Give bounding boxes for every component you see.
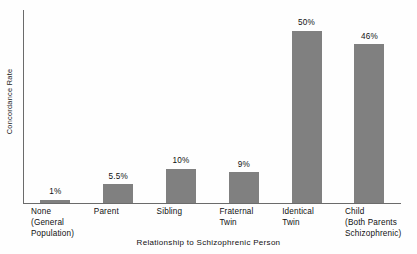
bar-value-label-2: 10% bbox=[172, 157, 189, 165]
bar-5 bbox=[354, 44, 384, 203]
category-label-4: IdenticalTwin bbox=[282, 206, 352, 228]
category-label-0: None(GeneralPopulation) bbox=[31, 206, 101, 239]
bar-group-5: 46% bbox=[338, 10, 401, 203]
bar-group-3: 9% bbox=[212, 10, 275, 203]
x-axis-line bbox=[23, 203, 401, 204]
bar-group-0: 1% bbox=[24, 10, 87, 203]
bar-3 bbox=[229, 172, 259, 203]
category-label-1: Parent bbox=[94, 206, 164, 217]
category-label-5: Child(Both ParentsSchizophrenic) bbox=[345, 206, 415, 239]
concordance-rate-bar-chart: Concordance Rate 1% 5.5% 10% 9% 50% 46% … bbox=[0, 0, 417, 254]
bar-value-label-0: 1% bbox=[49, 188, 61, 196]
bar-1 bbox=[103, 184, 133, 203]
bar-4 bbox=[292, 31, 322, 203]
x-axis-title: Relationship to Schizophrenic Person bbox=[0, 238, 417, 247]
plot-area: 1% 5.5% 10% 9% 50% 46% bbox=[24, 10, 401, 203]
bar-group-1: 5.5% bbox=[87, 10, 150, 203]
bar-group-4: 50% bbox=[275, 10, 338, 203]
bar-value-label-5: 46% bbox=[361, 33, 378, 41]
y-axis-title-text: Concordance Rate bbox=[6, 69, 15, 135]
bar-value-label-1: 5.5% bbox=[108, 173, 127, 181]
bar-0 bbox=[40, 200, 70, 203]
category-label-2: Sibling bbox=[157, 206, 227, 217]
bar-value-label-4: 50% bbox=[298, 19, 315, 27]
bar-value-label-3: 9% bbox=[238, 161, 250, 169]
bar-group-2: 10% bbox=[150, 10, 213, 203]
y-axis-title: Concordance Rate bbox=[0, 0, 20, 203]
category-label-3: FraternalTwin bbox=[219, 206, 289, 228]
bar-2 bbox=[166, 169, 196, 203]
